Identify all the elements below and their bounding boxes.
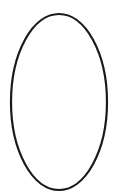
diagram-svg	[0, 0, 113, 196]
diagram-canvas	[0, 0, 113, 196]
ellipse-shape	[11, 14, 107, 190]
